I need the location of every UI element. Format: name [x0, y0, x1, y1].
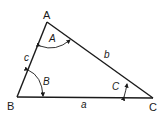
angle-c-label: C [112, 81, 120, 92]
angle-b-arc [28, 70, 43, 96]
vertex-c-label: C [149, 101, 157, 113]
angle-c-arc [124, 84, 127, 97]
side-a-line [17, 97, 153, 98]
side-b-label: b [104, 49, 110, 60]
vertex-a-label: A [43, 9, 51, 21]
triangle-diagram: A B C c b a A B C [0, 0, 162, 120]
side-c-label: c [24, 52, 29, 63]
vertex-b-label: B [7, 100, 14, 112]
side-a-label: a [81, 99, 87, 110]
angle-b-label: B [43, 76, 50, 87]
angle-a-label: A [48, 33, 56, 44]
side-b-line [47, 22, 153, 98]
